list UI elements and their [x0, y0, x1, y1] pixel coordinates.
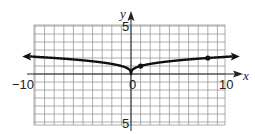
y-tick-label-min: 5 [122, 116, 129, 131]
y-axis-label: y [118, 6, 126, 21]
data-points [138, 55, 210, 68]
data-point [138, 63, 143, 68]
axes [27, 11, 243, 131]
grid [34, 25, 225, 125]
x-tick-label-min: −10 [12, 77, 34, 92]
y-tick-label-max: 5 [122, 19, 129, 34]
x-tick-label-zero: 0 [129, 77, 136, 92]
x-axis-label: x [242, 68, 249, 83]
x-tick-label-max: 10 [219, 77, 233, 92]
function-graph: −10 0 10 5 5 x y [0, 0, 255, 134]
data-point [205, 55, 210, 60]
grid-border [34, 25, 225, 125]
